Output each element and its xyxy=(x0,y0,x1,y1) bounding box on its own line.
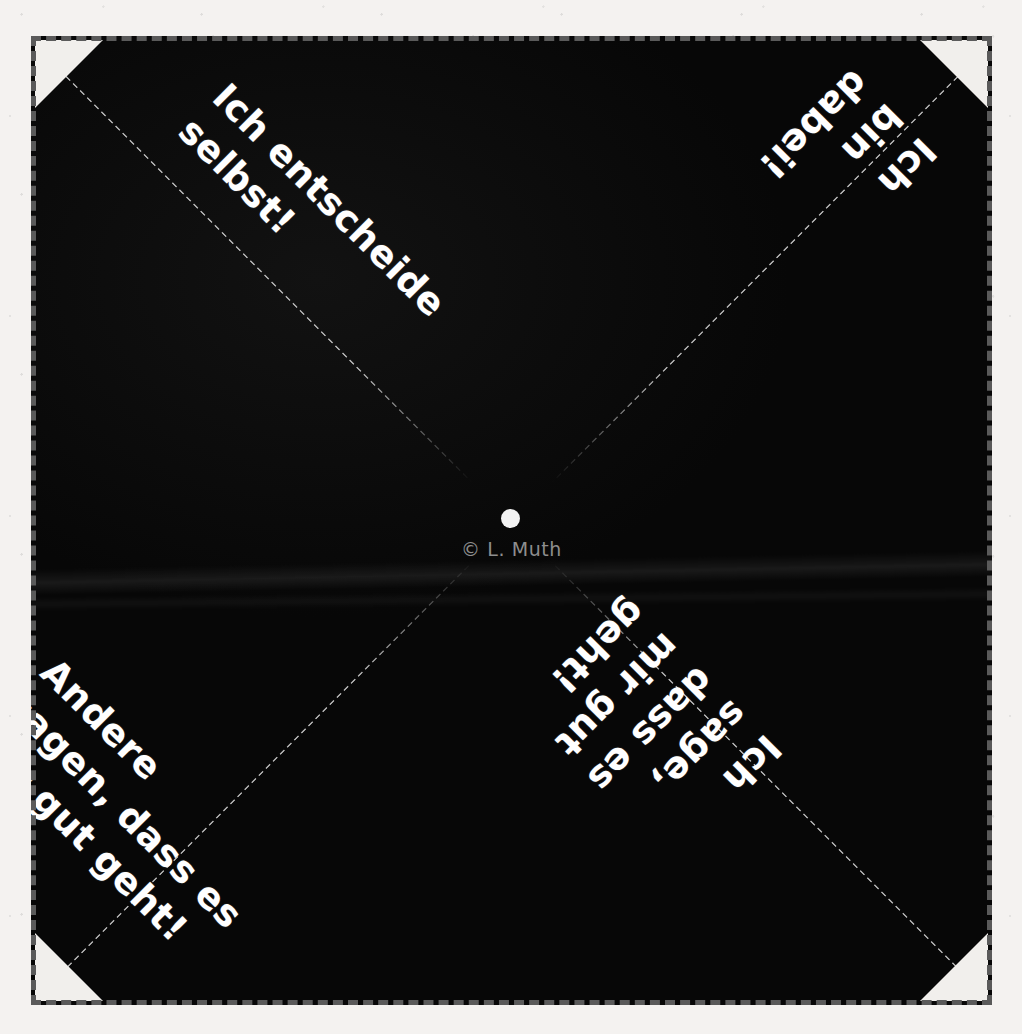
quadrant-text-bottom-left: Andere sagen, dass es mir gut geht! xyxy=(31,649,286,973)
quadrant-text-top-right: Ich bin dabei! xyxy=(748,59,946,257)
corner-flap-top-left xyxy=(35,40,103,108)
copyright-credit: © L. Muth xyxy=(31,538,992,560)
quadrant-text-bottom-right: Ich sage, dass es mir gut geht! xyxy=(479,588,791,900)
corner-flap-bottom-left xyxy=(35,933,103,1001)
fortune-teller-square: Ich entscheide selbst! Ich bin dabei! An… xyxy=(31,36,992,1005)
paper-crease-artifact-secondary xyxy=(31,587,992,612)
quadrant-text-top-left: Ich entscheide selbst! xyxy=(168,74,456,362)
corner-flap-top-right xyxy=(920,40,988,108)
corner-flap-bottom-right xyxy=(920,933,988,1001)
centre-dot-marker xyxy=(501,509,520,528)
scanned-page: Ich entscheide selbst! Ich bin dabei! An… xyxy=(0,0,1022,1034)
